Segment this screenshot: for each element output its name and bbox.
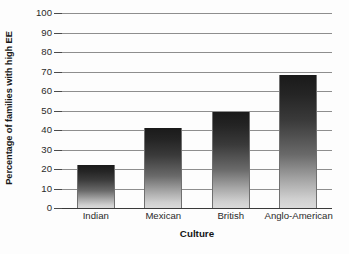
x-axis-tick-label: British [197,210,265,222]
x-axis-title: Culture [62,228,332,239]
x-axis-tick-label: Mexican [130,210,198,222]
y-axis-tick-mark [54,111,62,112]
y-axis-tick-mark [54,208,62,209]
y-axis-tick-label: 70 [18,67,52,77]
bar [144,128,182,208]
y-axis-tick-mark [54,130,62,131]
y-axis-title: Percentage of families with high EE [0,0,18,215]
y-axis-tick-mark [54,91,62,92]
y-axis-tick-label: 50 [18,106,52,116]
y-axis-tick-labels: 0102030405060708090100 [18,13,52,208]
y-axis-tick-label: 100 [18,8,52,18]
y-axis-tick-mark [54,33,62,34]
y-axis-tick-mark [54,189,62,190]
bars-layer [62,13,332,208]
y-axis-tick-mark [54,169,62,170]
y-axis-tick-label: 40 [18,125,52,135]
y-axis-tick-label: 20 [18,164,52,174]
y-axis-tick-mark [54,13,62,14]
x-axis-tick-label: Anglo-American [265,210,333,222]
y-axis-tick-label: 90 [18,28,52,38]
bar-chart-figure: Percentage of families with high EE 0102… [0,0,349,254]
y-axis-tick-label: 10 [18,184,52,194]
plot-area [62,13,332,208]
y-axis-tick-mark [54,52,62,53]
y-axis-tick-label: 80 [18,47,52,57]
y-axis-tick-marks [54,13,62,208]
y-axis-tick-mark [54,72,62,73]
x-axis-tick-labels: IndianMexicanBritishAnglo-American [62,210,332,226]
y-axis-tick-mark [54,150,62,151]
y-axis-tick-label: 0 [18,203,52,213]
y-axis-tick-label: 30 [18,145,52,155]
x-axis-tick-label: Indian [62,210,130,222]
bar [77,165,115,208]
bar [212,112,250,208]
bar [279,75,317,208]
y-axis-title-text: Percentage of families with high EE [4,31,14,185]
y-axis-tick-label: 60 [18,86,52,96]
